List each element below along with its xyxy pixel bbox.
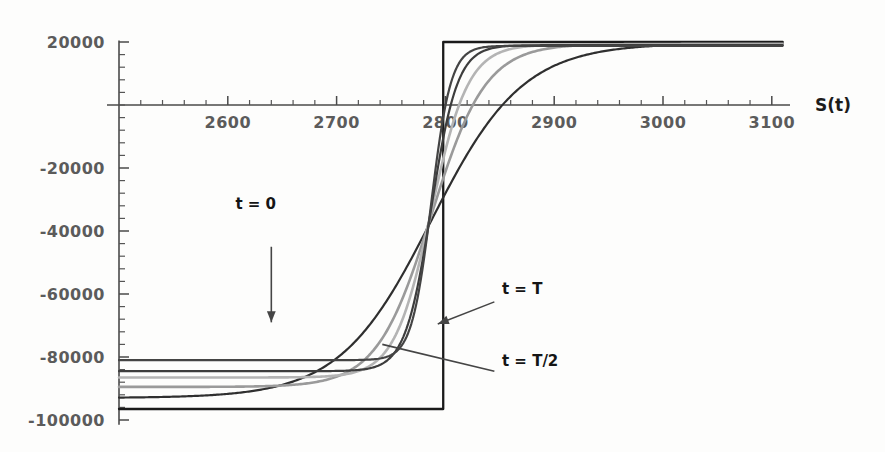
data-series-group: [119, 42, 783, 409]
y-tick-label: -80000: [40, 348, 105, 367]
series-curve-4: [119, 45, 783, 371]
series-curve-1: [119, 43, 783, 397]
x-axis-label: S(t): [815, 95, 851, 115]
annotation-arrowhead: [267, 311, 276, 322]
x-tick-label: 2600: [205, 113, 252, 132]
y-tick-label: -100000: [28, 411, 105, 430]
series-curve-5: [119, 46, 783, 360]
x-axis-ticks: [141, 96, 772, 105]
x-tick-label: 3000: [640, 113, 687, 132]
chart-figure: 260027002800290030003100 20000-20000-400…: [0, 0, 885, 452]
y-axis-ticks: [119, 42, 129, 420]
annotation-label: t = T/2: [502, 352, 558, 370]
series-curve-0: [119, 42, 783, 409]
x-tick-label: 3100: [749, 113, 796, 132]
x-axis-tick-labels: 260027002800290030003100: [205, 113, 796, 132]
annotation-label: t = T: [502, 280, 543, 298]
chart-canvas: 260027002800290030003100 20000-20000-400…: [0, 0, 885, 452]
axes-group: [107, 40, 790, 424]
y-tick-label: -20000: [40, 159, 105, 178]
series-curve-2: [119, 44, 783, 387]
x-tick-label: 2700: [313, 113, 360, 132]
x-tick-label: 2900: [531, 113, 578, 132]
y-tick-label: -60000: [40, 285, 105, 304]
annotation-label: t = 0: [235, 195, 276, 213]
annotation-leader-line: [382, 344, 494, 371]
y-tick-label: 20000: [47, 33, 105, 52]
series-curve-3: [119, 45, 783, 378]
y-tick-label: -40000: [40, 222, 105, 241]
y-axis-tick-labels: 20000-20000-40000-60000-80000-100000: [28, 33, 105, 430]
